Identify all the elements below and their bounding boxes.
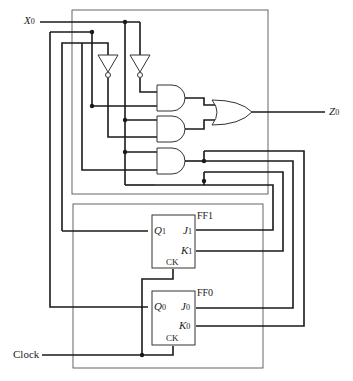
ff1-q-label: Q1 — [154, 224, 166, 236]
circuit-diagram: X0 Z0 Clock FF1 Q1 J1 K1 CK FF0 Q0 J0 K0… — [0, 0, 353, 381]
and3-output-wires — [185, 151, 304, 326]
or-gate — [212, 100, 252, 125]
ff0-name: FF0 — [197, 287, 213, 298]
ff1-ck-label: CK — [166, 257, 179, 267]
and-gate-3 — [157, 148, 185, 174]
ff0-k-label: K0 — [179, 319, 190, 331]
and-gate-2 — [157, 116, 185, 142]
ff1-name: FF1 — [197, 210, 213, 221]
ff1-j-label: J1 — [183, 224, 192, 236]
ff1-k-label: K1 — [181, 244, 192, 256]
x0-input-wire — [40, 20, 140, 185]
ff0-j-label: J0 — [181, 300, 190, 312]
ff0-q-label: Q0 — [154, 300, 166, 312]
clock-label: Clock — [13, 348, 39, 360]
and-gate-1 — [157, 85, 185, 111]
ff0-ck-label: CK — [166, 333, 179, 343]
z0-label: Z0 — [329, 105, 339, 117]
x0-label: X0 — [24, 14, 35, 26]
